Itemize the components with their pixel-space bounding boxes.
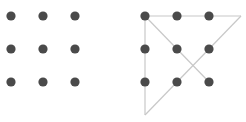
dot xyxy=(38,77,47,86)
dot xyxy=(172,77,181,86)
dot xyxy=(140,77,149,86)
dot xyxy=(6,77,15,86)
solution-lines xyxy=(145,16,241,115)
dot-grids xyxy=(6,11,213,86)
dot xyxy=(204,77,213,86)
dot xyxy=(204,44,213,53)
dot xyxy=(70,77,79,86)
dot xyxy=(70,44,79,53)
dot xyxy=(140,44,149,53)
dot xyxy=(38,44,47,53)
dot xyxy=(204,11,213,20)
puzzle-panel xyxy=(6,11,79,86)
dot xyxy=(172,11,181,20)
dot xyxy=(172,44,181,53)
dot xyxy=(70,11,79,20)
dot xyxy=(38,11,47,20)
nine-dots-diagram xyxy=(0,0,246,122)
dot xyxy=(140,11,149,20)
dot xyxy=(6,11,15,20)
dot xyxy=(6,44,15,53)
